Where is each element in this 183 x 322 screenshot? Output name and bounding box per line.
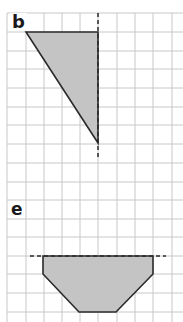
panel-label-e: e — [10, 201, 24, 218]
reflection-grid-figure — [0, 0, 183, 322]
panel-label-b: b — [10, 13, 27, 31]
trapezoid-shape-e — [43, 256, 153, 312]
